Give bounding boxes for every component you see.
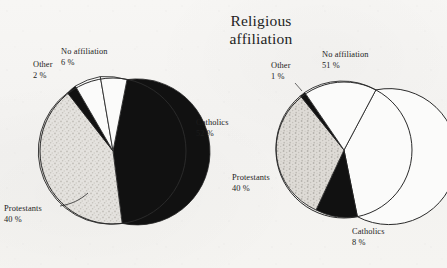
- right-label-catholics-name: Catholics: [352, 227, 385, 236]
- right-label-no-affiliation-pct: 51 %: [322, 61, 369, 72]
- right-label-protestants-name: Protestants: [232, 173, 270, 182]
- right-label-protestants: Protestants 40 %: [232, 173, 270, 195]
- right-label-no-affiliation-name: No affiliation: [322, 50, 369, 59]
- right-label-catholics-pct: 8 %: [352, 238, 385, 249]
- right-label-catholics: Catholics 8 %: [352, 227, 385, 249]
- figure-page: Religious affiliation: [0, 0, 447, 268]
- right-label-protestants-pct: 40 %: [232, 184, 270, 195]
- right-label-no-affiliation: No affiliation 51 %: [322, 50, 369, 72]
- right-label-other-pct: 1 %: [271, 72, 291, 83]
- right-label-other: Other 1 %: [271, 61, 291, 83]
- right-other-leader: [295, 83, 302, 91]
- right-label-other-name: Other: [271, 61, 291, 70]
